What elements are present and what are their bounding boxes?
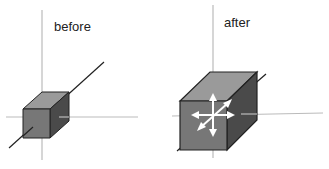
small-cube — [23, 92, 69, 138]
before-panel — [6, 10, 138, 160]
after-panel — [172, 5, 323, 158]
diagram-canvas — [0, 0, 329, 169]
